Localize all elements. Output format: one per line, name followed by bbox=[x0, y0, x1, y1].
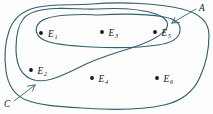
outcome-label-e4-sub: 4 bbox=[105, 78, 108, 85]
outcome-label-e3-base: E bbox=[108, 28, 115, 38]
outcome-dot-e5 bbox=[153, 30, 157, 34]
outcome-label-e6-sub: 6 bbox=[170, 78, 174, 85]
set-a-leader-line bbox=[172, 9, 196, 23]
venn-diagram-figure: E 1 E 3 E 5 E 2 E 4 E 6 A C bbox=[0, 0, 213, 114]
venn-diagram-canvas: E 1 E 3 E 5 E 2 E 4 E 6 A C bbox=[0, 0, 213, 114]
outcome-label-e6-base: E bbox=[163, 74, 170, 84]
set-label-a: A bbox=[198, 3, 205, 13]
outcome-label-e2-sub: 2 bbox=[44, 70, 47, 77]
outcome-dot-e3 bbox=[100, 30, 104, 34]
set-c-leader-line bbox=[14, 85, 35, 101]
outcome-label-e5-base: E bbox=[161, 28, 168, 38]
outcome-dot-e6 bbox=[155, 76, 159, 80]
outcome-label-e1-base: E bbox=[47, 29, 54, 39]
outcome-label-e4-base: E bbox=[98, 74, 105, 84]
outcome-label-e2-base: E bbox=[37, 66, 44, 76]
outcome-label-e1-sub: 1 bbox=[55, 33, 58, 40]
outcome-dot-e4 bbox=[90, 76, 94, 80]
outcome-dot-e2 bbox=[29, 68, 33, 72]
outcome-dot-e1 bbox=[39, 31, 43, 35]
outcome-label-e5-sub: 5 bbox=[168, 32, 171, 39]
outcome-label-e3-sub: 3 bbox=[114, 32, 118, 39]
set-label-c: C bbox=[4, 99, 11, 109]
